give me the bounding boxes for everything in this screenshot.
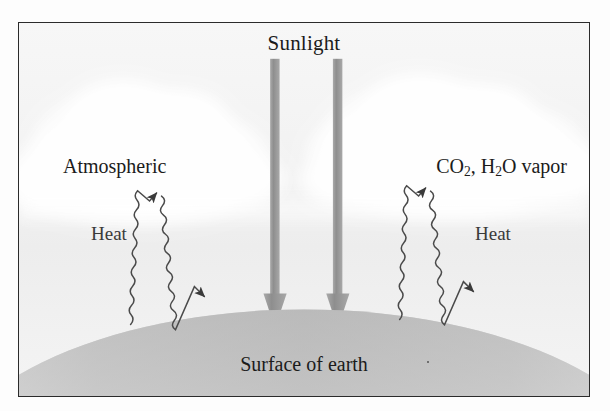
cloud-haze [19, 198, 589, 222]
stray-speck [427, 361, 429, 363]
gases-h2o-subscript: 2 [495, 164, 502, 179]
greenhouse-effect-figure: Sunlight Atmospheric CO2, H2O vapor Heat… [0, 0, 610, 411]
label-sunlight: Sunlight [19, 31, 589, 56]
figure-frame: Sunlight Atmospheric CO2, H2O vapor Heat… [18, 22, 590, 397]
gases-co2-subscript: 2 [464, 164, 471, 179]
label-heat-left: Heat [91, 223, 127, 245]
label-surface-of-earth: Surface of earth [19, 353, 589, 376]
label-heat-right: Heat [475, 223, 511, 245]
label-greenhouse-gases: CO2, H2O vapor [436, 155, 567, 180]
gases-co2-prefix: CO [436, 155, 464, 177]
gases-separator: , H [471, 155, 495, 177]
diagram-graphics [19, 23, 589, 396]
label-atmospheric: Atmospheric [63, 155, 166, 178]
gases-suffix: O vapor [502, 155, 567, 177]
